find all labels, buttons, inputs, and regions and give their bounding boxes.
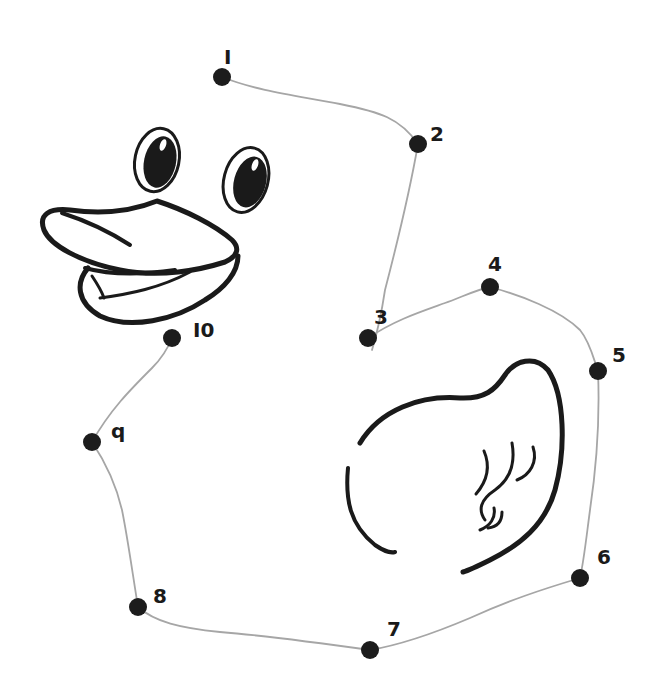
dot-3[interactable] bbox=[359, 329, 377, 347]
dot-label-7: 7 bbox=[387, 617, 401, 641]
dot-7[interactable] bbox=[361, 641, 379, 659]
duck-drawing: I 2 3 4 5 6 7 8 q I0 bbox=[0, 0, 663, 699]
dot-label-3: 3 bbox=[374, 305, 388, 329]
beak bbox=[42, 201, 238, 323]
dot-label-9: q bbox=[111, 419, 125, 443]
dot-label-2: 2 bbox=[430, 122, 444, 146]
dot-label-8: 8 bbox=[153, 584, 167, 608]
line-9-10 bbox=[92, 338, 172, 442]
dot-10[interactable] bbox=[163, 329, 181, 347]
dot-label-10: I0 bbox=[193, 318, 214, 342]
line-5-6 bbox=[580, 371, 599, 578]
line-4-5 bbox=[490, 287, 598, 371]
dot-label-5: 5 bbox=[612, 343, 626, 367]
dot-5[interactable] bbox=[589, 362, 607, 380]
line-8-9 bbox=[92, 442, 138, 607]
line-7-8 bbox=[138, 607, 370, 650]
right-eye bbox=[216, 142, 276, 217]
dot-label-6: 6 bbox=[597, 545, 611, 569]
left-eye bbox=[129, 124, 185, 196]
dot-1[interactable] bbox=[213, 68, 231, 86]
dot-6[interactable] bbox=[571, 569, 589, 587]
dot-2[interactable] bbox=[409, 135, 427, 153]
wing bbox=[347, 361, 562, 572]
dot-4[interactable] bbox=[481, 278, 499, 296]
dot-9[interactable] bbox=[83, 433, 101, 451]
dot-label-4: 4 bbox=[488, 252, 502, 276]
line-1-2 bbox=[222, 77, 418, 144]
dot-8[interactable] bbox=[129, 598, 147, 616]
dot-label-1: I bbox=[224, 45, 231, 69]
line-6-7 bbox=[370, 578, 580, 650]
